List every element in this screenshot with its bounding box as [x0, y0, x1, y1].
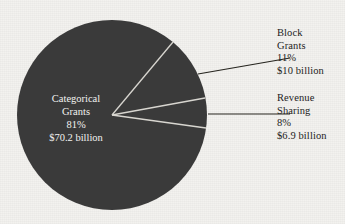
- slice-label-name-line-2: Grants: [22, 105, 130, 118]
- callout-percent: 8%: [277, 117, 327, 130]
- callout-name-line-1: Block: [277, 27, 324, 40]
- slice-label-amount: $70.2 billion: [22, 131, 130, 144]
- callout-amount: $6.9 billion: [277, 130, 327, 143]
- callout-name-line-2: Sharing: [277, 105, 327, 118]
- callout-name-line-1: Revenue: [277, 92, 327, 105]
- callout-percent: 11%: [277, 52, 324, 65]
- callout-name-line-2: Grants: [277, 40, 324, 53]
- pie-chart-figure: Categorical Grants 81% $70.2 billion Blo…: [0, 0, 345, 224]
- callout-amount: $10 billion: [277, 65, 324, 78]
- slice-label-name-line-1: Categorical: [22, 92, 130, 105]
- callout-revenue-sharing: Revenue Sharing 8% $6.9 billion: [277, 92, 327, 142]
- slice-label-percent: 81%: [22, 118, 130, 131]
- slice-label-categorical-grants: Categorical Grants 81% $70.2 billion: [22, 92, 130, 144]
- callout-block-grants: Block Grants 11% $10 billion: [277, 27, 324, 77]
